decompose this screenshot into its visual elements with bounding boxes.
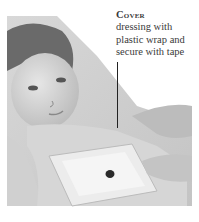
callout-leader-line [117, 62, 118, 128]
caption-line: dressing with [116, 21, 199, 34]
first-aid-photo [7, 16, 111, 216]
caption-line: secure with tape [116, 46, 199, 59]
caption-body: dressing with plastic wrap and secure wi… [116, 21, 199, 59]
caption-title: Cover [116, 8, 199, 21]
instruction-caption: Cover dressing with plastic wrap and sec… [116, 8, 199, 59]
caption-line: plastic wrap and [116, 34, 199, 47]
